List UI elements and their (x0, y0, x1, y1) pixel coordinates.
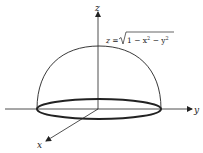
x-axis-label: x (37, 140, 42, 150)
hemisphere-diagram: z y x z = 1 − x2 − y2 (0, 0, 203, 153)
svg-text:z =: z = (105, 36, 119, 45)
svg-text:1 − x2 − y2: 1 − x2 − y2 (127, 35, 169, 45)
x-axis (46, 109, 98, 141)
surface-equation: z = 1 − x2 − y2 (105, 32, 174, 45)
y-axis-label: y (193, 105, 200, 115)
z-axis-label: z (94, 3, 100, 13)
